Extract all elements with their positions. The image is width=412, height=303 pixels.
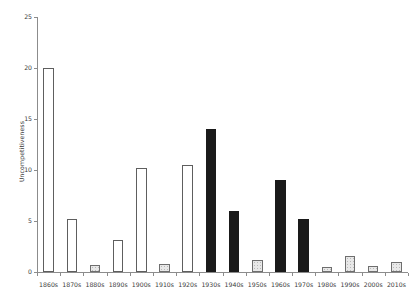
y-axis-tick-label: 25 [24,13,32,21]
bar [298,219,309,272]
bar [322,267,333,272]
bar [159,264,170,272]
x-axis-tick-label: 2010s [380,280,412,289]
x-axis-tick-mark [199,273,200,276]
bar [391,262,402,272]
y-axis-tick-label: 10 [24,166,32,174]
x-axis-tick-mark [37,273,38,276]
y-axis-tick: 15 [0,119,37,120]
x-axis-tick-mark [246,273,247,276]
y-axis-tick: 5 [0,221,37,222]
bar [182,165,193,272]
y-axis-line [37,17,38,273]
x-axis-tick-mark [176,273,177,276]
x-axis-tick-mark [408,273,409,276]
x-axis-tick-mark [292,273,293,276]
y-axis-tick-mark [34,170,37,171]
bar [368,266,379,272]
bar [275,180,286,272]
y-axis-tick-mark [34,119,37,120]
y-axis-tick-label: 20 [24,64,32,72]
x-axis-tick-mark [153,273,154,276]
x-axis-tick-mark [315,273,316,276]
bar [136,168,147,272]
x-axis-tick-mark [385,273,386,276]
y-axis-tick-label: 5 [28,217,32,225]
y-axis-tick: 25 [0,17,37,18]
bar [113,240,124,272]
y-axis-tick: 20 [0,68,37,69]
y-axis-label: Uncompetitiveness [14,0,30,303]
bar [43,68,54,272]
bar [90,265,101,272]
y-axis-tick-mark [34,221,37,222]
x-axis-tick-mark [83,273,84,276]
bar-chart: Uncompetitiveness 0510152025 1860s1870s1… [0,0,412,303]
y-axis-tick-mark [34,17,37,18]
x-axis-tick-mark [223,273,224,276]
x-axis-tick-mark [130,273,131,276]
y-axis-tick-label: 0 [28,268,32,276]
bar [229,211,240,272]
y-axis-tick-label: 15 [24,115,32,123]
x-axis-tick-mark [362,273,363,276]
bar [206,129,217,272]
x-axis-tick-mark [107,273,108,276]
bar [345,256,356,272]
x-axis-tick-mark [60,273,61,276]
y-axis-tick: 10 [0,170,37,171]
y-axis-tick: 0 [0,272,37,273]
bar [67,219,78,272]
y-axis-tick-mark [34,68,37,69]
bar [252,260,263,272]
x-axis-tick-mark [338,273,339,276]
x-axis-tick-mark [269,273,270,276]
